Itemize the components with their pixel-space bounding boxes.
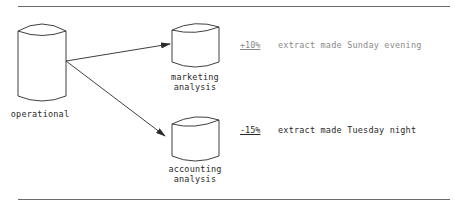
accounting-label-line2: analysis [160,174,230,185]
arrow-to-accounting [66,61,165,136]
accounting-note: extract made Tuesday night [278,125,416,136]
marketing-change-badge: +10% [240,40,260,51]
arrow-to-marketing [66,44,170,61]
marketing-database-icon [172,24,219,67]
operational-database-icon [18,24,66,101]
marketing-note: extract made Sunday evening [278,40,422,51]
accounting-change-badge: -15% [240,125,260,136]
operational-label: operational [5,109,75,120]
accounting-database-icon [172,117,219,161]
marketing-label-line2: analysis [160,82,230,93]
